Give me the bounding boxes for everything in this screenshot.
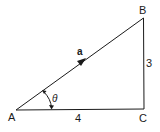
angle-arrow-end-icon [49,105,54,110]
angle-label-theta: θ [52,93,58,104]
vertex-label-b: B [139,4,146,16]
vector-label-a: a [77,46,83,57]
side-label-bc: 3 [146,57,152,69]
side-label-ac: 4 [75,112,81,124]
side-bc [144,18,145,109]
vertex-label-c: C [139,112,147,124]
vertex-label-a: A [8,111,16,123]
side-ac [16,109,144,110]
triangle-diagram: A B C 4 3 a θ [0,0,160,132]
